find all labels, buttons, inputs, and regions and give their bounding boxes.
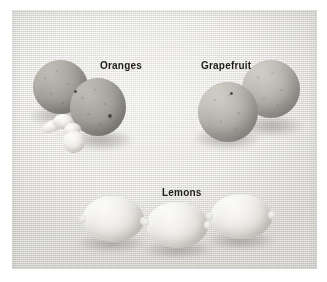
lemon-body <box>146 202 208 248</box>
lemon-fruit-1 <box>82 196 144 242</box>
lemon-tip-left <box>79 215 86 223</box>
photograph: Oranges Grapefruit <box>12 10 317 269</box>
lemon-fruit-2 <box>146 202 208 248</box>
lemon-body <box>210 194 272 239</box>
orange-stem-spot <box>74 90 77 93</box>
lemon-tip-left <box>142 218 149 226</box>
caption-grapefruit: Grapefruit <box>201 60 251 72</box>
lemon-tip-left <box>206 212 213 220</box>
grapefruit-stem-spot <box>230 92 233 95</box>
orange-peel-segment-4 <box>62 130 85 153</box>
orange-navel-spot <box>108 114 112 118</box>
grapefruit-fruit-2 <box>198 82 258 142</box>
caption-oranges: Oranges <box>100 60 142 72</box>
grapefruit-rind-texture <box>198 82 258 142</box>
caption-lemons: Lemons <box>162 187 202 199</box>
lemon-fruit-3 <box>210 194 272 239</box>
lemon-body <box>82 196 144 242</box>
lemon-tip-right <box>268 211 275 219</box>
figure-root: Oranges Grapefruit <box>0 0 327 282</box>
